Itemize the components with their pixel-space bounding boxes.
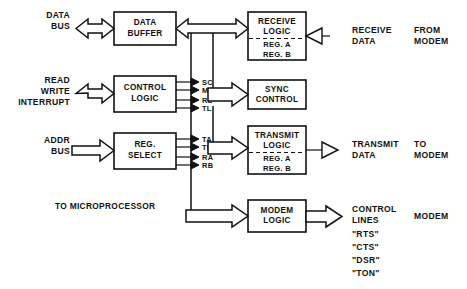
block-receive-logic-line1: RECEIVE bbox=[258, 17, 296, 26]
io-control-line-dsr: "DSR" bbox=[352, 255, 380, 265]
side-label-from-modem-line2: MODEM bbox=[414, 36, 448, 46]
block-control-logic: CONTROL LOGIC bbox=[114, 76, 176, 112]
block-sync-control-line1: SYNC bbox=[265, 85, 289, 94]
block-transmit-logic-line1: TRANSMIT bbox=[255, 131, 300, 140]
port-data-bus-line1: DATA bbox=[46, 10, 70, 20]
io-control-line-rts: "RTS" bbox=[352, 229, 379, 239]
block-transmit-logic-reg-b: REG. B bbox=[263, 164, 291, 173]
block-data-buffer-line2: BUFFER bbox=[127, 29, 162, 38]
io-control-lines-line1: CONTROL bbox=[352, 204, 397, 214]
signal-rb: RB bbox=[202, 161, 213, 170]
side-label-modem: MODEM bbox=[414, 211, 448, 221]
block-modem-logic-line1: MODEM bbox=[261, 206, 294, 215]
io-control-line-ton: "TON" bbox=[352, 268, 380, 278]
block-transmit-logic-reg-a: REG. A bbox=[263, 154, 291, 163]
block-receive-logic-line2: LOGIC bbox=[263, 27, 290, 36]
block-sync-control-line2: CONTROL bbox=[256, 95, 299, 104]
block-receive-logic-reg-a: REG. A bbox=[263, 40, 291, 49]
block-diagram-canvas: DATA BUFFER CONTROL LOGIC REG. SELECT RE… bbox=[0, 0, 467, 289]
block-control-logic-line1: CONTROL bbox=[124, 83, 167, 92]
port-rwi-line2: WRITE bbox=[41, 86, 70, 96]
block-data-buffer-line1: DATA bbox=[134, 18, 157, 27]
bus-branch-to-modem-logic bbox=[186, 205, 248, 227]
block-reg-select-line1: REG. bbox=[134, 140, 155, 149]
block-transmit-logic-line2: LOGIC bbox=[263, 141, 290, 150]
io-transmit-data: TRANSMIT DATA bbox=[306, 139, 399, 160]
io-control-lines: CONTROL LINES "RTS" "CTS" "DSR" "TON" bbox=[306, 204, 397, 278]
block-reg-select-line2: SELECT bbox=[128, 151, 162, 160]
port-rwi-line3: INTERRUPT bbox=[18, 97, 70, 107]
port-data-bus-line2: BUS bbox=[51, 21, 70, 31]
note-to-microprocessor: TO MICROPROCESSOR bbox=[55, 201, 155, 211]
bus-data-buffer-to-receive-logic bbox=[176, 19, 248, 38]
io-control-line-cts: "CTS" bbox=[352, 242, 379, 252]
arrow-modem-logic-to-control-lines bbox=[306, 206, 342, 227]
io-control-lines-line2: LINES bbox=[352, 215, 379, 225]
side-label-from-modem: FROM MODEM bbox=[414, 25, 448, 46]
io-receive-data: RECEIVE DATA bbox=[306, 25, 392, 46]
io-transmit-data-line2: DATA bbox=[352, 150, 376, 160]
side-label-to-modem: TO MODEM bbox=[414, 139, 448, 160]
port-addr-bus: ADDR BUS bbox=[44, 135, 71, 156]
side-label-to-modem-line2: MODEM bbox=[414, 150, 448, 160]
arrow-rwi-bidirectional bbox=[76, 84, 114, 103]
block-modem-logic-line2: LOGIC bbox=[263, 216, 290, 225]
block-transmit-logic: TRANSMIT LOGIC REG. A REG. B bbox=[248, 126, 306, 174]
block-modem-logic: MODEM LOGIC bbox=[248, 200, 306, 232]
block-data-buffer: DATA BUFFER bbox=[114, 12, 176, 45]
port-data-bus: DATA BUS bbox=[46, 10, 70, 31]
block-reg-select: REG. SELECT bbox=[114, 133, 176, 169]
io-transmit-data-line1: TRANSMIT bbox=[352, 139, 399, 149]
bus-branch-to-transmit-logic bbox=[208, 137, 248, 159]
arrow-addr-bus-to-reg-select bbox=[72, 140, 114, 161]
port-addr-bus-line1: ADDR bbox=[44, 135, 71, 145]
side-label-to-modem-line1: TO bbox=[414, 139, 426, 149]
block-receive-logic-reg-b: REG. B bbox=[263, 50, 291, 59]
signal-tl: TL bbox=[202, 104, 212, 113]
block-receive-logic: RECEIVE LOGIC REG. A REG. B bbox=[248, 12, 306, 60]
port-rwi-line1: READ bbox=[44, 75, 70, 85]
side-label-from-modem-line1: FROM bbox=[414, 25, 441, 35]
port-read-write-interrupt: READ WRITE INTERRUPT bbox=[18, 75, 70, 107]
io-receive-data-line2: DATA bbox=[352, 36, 376, 46]
block-sync-control: SYNC CONTROL bbox=[248, 80, 306, 109]
block-control-logic-line2: LOGIC bbox=[131, 94, 158, 103]
port-addr-bus-line2: BUS bbox=[51, 146, 70, 156]
io-receive-data-line1: RECEIVE bbox=[352, 25, 392, 35]
arrow-data-bus-bidirectional bbox=[76, 19, 114, 38]
side-label-modem-line1: MODEM bbox=[414, 211, 448, 221]
